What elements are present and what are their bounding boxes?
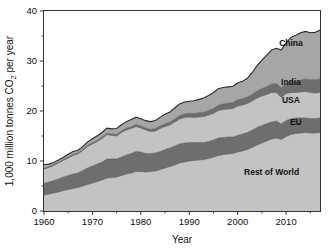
series-label-eu: EU — [290, 117, 302, 127]
chart-canvas: 010203040 196019701980199020002010 Year … — [0, 0, 330, 249]
co2-emissions-stacked-area-chart: 010203040 196019701980199020002010 Year … — [0, 0, 330, 249]
x-tick-label: 2010 — [276, 216, 297, 227]
y-tick-label: 30 — [26, 55, 37, 66]
series-label-usa: USA — [282, 95, 300, 105]
x-tick-label: 1970 — [82, 216, 103, 227]
series-label-rest-of-world: Rest of World — [244, 167, 299, 177]
x-tick-label: 1960 — [33, 216, 54, 227]
y-tick-label: 40 — [26, 5, 37, 16]
series-label-china: China — [279, 38, 303, 48]
y-tick-label: 10 — [26, 155, 37, 166]
x-tick-label: 1990 — [179, 216, 200, 227]
x-tick-label: 1980 — [130, 216, 151, 227]
x-axis-title: Year — [172, 234, 193, 245]
y-tick-label: 0 — [32, 205, 37, 216]
series-label-india: India — [281, 77, 301, 87]
y-tick-label: 20 — [26, 105, 37, 116]
x-tick-label: 2000 — [227, 216, 248, 227]
